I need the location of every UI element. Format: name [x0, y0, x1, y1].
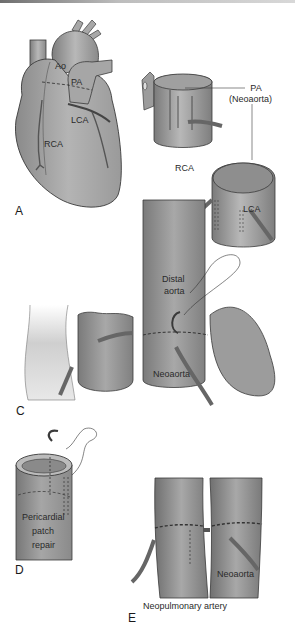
label-neoaorta-c: Neoaorta — [153, 370, 190, 379]
panel-e-final-result: Neoaorta — [130, 478, 280, 598]
panel-label-c: C — [16, 405, 25, 417]
label-neopulmonary-artery: Neopulmonary artery — [143, 602, 227, 611]
panel-c-aortic-anastomosis: Distal aorta Neoaorta — [0, 255, 295, 405]
label-rca-b: RCA — [175, 164, 194, 173]
anastomosis-illustration — [0, 255, 295, 405]
label-lca: LCA — [71, 116, 89, 125]
heart-illustration — [0, 0, 145, 215]
panel-a-heart: Ao PA LCA RCA A — [0, 0, 145, 215]
label-aorta: aorta — [164, 287, 185, 296]
label-neoaorta-e: Neoaorta — [217, 570, 254, 579]
panel-label-e: E — [128, 612, 136, 624]
label-pericardial: Pericardial — [22, 513, 65, 522]
panel-label-d: D — [15, 564, 24, 576]
label-ao: Ao — [55, 62, 66, 71]
label-repair: repair — [32, 541, 55, 550]
label-pa-neoaorta: PA — [246, 84, 266, 93]
label-pa: PA — [71, 78, 82, 87]
panel-d-patch-repair: Pericardial patch repair — [14, 435, 94, 560]
label-neoaorta-paren: (Neoaorta) — [229, 95, 272, 104]
label-distal: Distal — [162, 275, 185, 284]
label-patch: patch — [32, 527, 54, 536]
label-rca: RCA — [44, 140, 63, 149]
final-result-illustration — [130, 478, 280, 598]
panel-label-a: A — [15, 205, 23, 217]
label-lca-b: LCA — [243, 205, 261, 214]
